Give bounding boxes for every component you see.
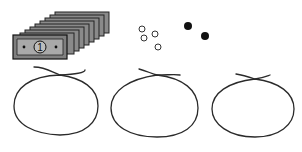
front-bill: 1 bbox=[13, 35, 67, 59]
filled-counter-icon bbox=[201, 32, 209, 40]
loop-3 bbox=[212, 74, 294, 137]
open-counter-icon bbox=[139, 26, 145, 32]
filled-counter-icon bbox=[184, 22, 192, 30]
open-counter-icon bbox=[152, 31, 158, 37]
open-counters bbox=[139, 26, 161, 50]
loop-2 bbox=[111, 69, 198, 137]
loops bbox=[14, 67, 294, 137]
illustration-canvas: 1 bbox=[0, 0, 302, 152]
filled-counters bbox=[184, 22, 209, 40]
open-counter-icon bbox=[155, 44, 161, 50]
bill-stack: 1 bbox=[13, 12, 109, 59]
loop-1 bbox=[14, 67, 98, 135]
bill-denomination: 1 bbox=[37, 42, 43, 53]
open-counter-icon bbox=[141, 35, 147, 41]
